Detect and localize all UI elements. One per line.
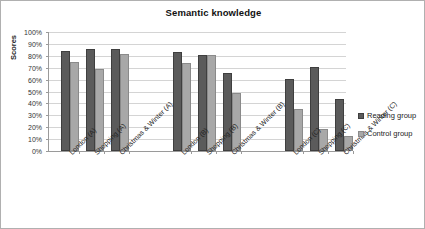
- chart-container: Semantic knowledge Scores 100%90%80%70%6…: [0, 0, 425, 229]
- y-axis-tick-label: 0%: [32, 148, 42, 155]
- legend-item-control-group: Control group: [358, 129, 424, 138]
- y-axis-tick-label: 100%: [24, 29, 42, 36]
- y-axis-tick-label: 50%: [28, 88, 42, 95]
- y-axis-tick-label: 90%: [28, 40, 42, 47]
- legend-swatch-icon-control: [358, 131, 364, 137]
- x-axis-tick: [353, 151, 354, 154]
- y-axis-tick-label: 70%: [28, 64, 42, 71]
- x-axis-category-labels: London (A)Shopping (A)Christmas & Winter…: [48, 151, 346, 227]
- y-axis-tick-labels: 100%90%80%70%60%50%40%30%20%10%0%: [1, 32, 46, 151]
- legend-label-control: Control group: [367, 129, 412, 138]
- legend-label-reading: Reading group: [367, 111, 416, 120]
- chart-title: Semantic knowledge: [1, 7, 425, 18]
- y-axis-tick-label: 80%: [28, 52, 42, 59]
- y-axis-tick-label: 60%: [28, 76, 42, 83]
- y-axis-tick-label: 30%: [28, 112, 42, 119]
- chart-legend: Reading group Control group: [358, 111, 424, 147]
- y-axis-tick-label: 40%: [28, 100, 42, 107]
- legend-item-reading-group: Reading group: [358, 111, 424, 120]
- y-axis-tick-label: 10%: [28, 136, 42, 143]
- legend-swatch-icon-reading: [358, 113, 364, 119]
- y-axis-tick-label: 20%: [28, 124, 42, 131]
